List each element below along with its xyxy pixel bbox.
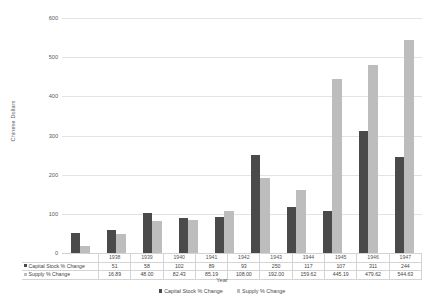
table-cell: 250	[260, 262, 292, 271]
bar-groups	[62, 18, 422, 253]
bar	[224, 211, 234, 253]
bar	[179, 218, 189, 253]
table-header-cell: 1941	[195, 254, 227, 263]
bar-group	[278, 18, 314, 253]
table-cell: 58	[131, 262, 163, 271]
table-header-cell: 1946	[357, 254, 389, 263]
y-axis-tick-label: 400	[49, 93, 58, 99]
bar	[251, 155, 261, 253]
y-axis-tick-label: 500	[49, 54, 58, 60]
table-header-cell: 1939	[131, 254, 163, 263]
bar	[188, 220, 198, 253]
bar-group	[134, 18, 170, 253]
legend-item-label: Supply % Change	[242, 288, 285, 294]
legend-color-swatch-icon	[237, 289, 240, 292]
bar	[395, 157, 405, 253]
bar	[215, 217, 225, 253]
table-header-cell: 1943	[260, 254, 292, 263]
bar	[296, 190, 306, 253]
bar	[116, 234, 126, 253]
y-axis-tick-label: 600	[49, 15, 58, 21]
legend-color-swatch-icon	[159, 289, 162, 292]
legend-item[interactable]: Supply % Change	[237, 288, 286, 294]
table-cell: 244	[389, 262, 421, 271]
series-color-swatch-icon	[24, 273, 27, 276]
bar-chart: Chinese Dollars 0100200300400500600 1938…	[0, 0, 444, 307]
bar	[152, 221, 162, 253]
y-axis-title: Chinese Dollars	[6, 56, 20, 186]
bar	[368, 65, 378, 253]
table-cell: 93	[228, 262, 260, 271]
legend-item-label: Capital Stock % Change	[164, 288, 222, 294]
bar-group	[98, 18, 134, 253]
table-header-cell: 1938	[99, 254, 131, 263]
table-header-cell: 1945	[325, 254, 357, 263]
x-axis-title: Year	[0, 277, 444, 283]
chart-legend: Capital Stock % ChangeSupply % Change	[0, 288, 444, 294]
bar-group	[62, 18, 98, 253]
bar	[143, 213, 153, 253]
x-axis-title-text: Year	[216, 277, 227, 283]
table-row: Capital Stock % Change515810289932501171…	[22, 262, 422, 271]
bar	[359, 131, 369, 253]
data-table: 1938193919401941194219431944194519461947…	[22, 253, 422, 280]
y-axis-tick-label: 300	[49, 133, 58, 139]
series-color-swatch-icon	[24, 264, 27, 267]
bar	[332, 79, 342, 253]
table-row-label: Capital Stock % Change	[22, 262, 99, 271]
bar	[71, 233, 81, 253]
table-header-cell: 1947	[389, 254, 421, 263]
bar	[287, 207, 297, 253]
bar-group	[314, 18, 350, 253]
bar	[323, 211, 333, 253]
table-corner-cell	[22, 254, 99, 263]
table-header-cell: 1944	[292, 254, 324, 263]
bar-group	[242, 18, 278, 253]
table-header-cell: 1940	[163, 254, 195, 263]
table-cell: 117	[292, 262, 324, 271]
bar-group	[206, 18, 242, 253]
table-row: 1938193919401941194219431944194519461947	[22, 254, 422, 263]
table-header-cell: 1942	[228, 254, 260, 263]
table-cell: 311	[357, 262, 389, 271]
table-cell: 51	[99, 262, 131, 271]
bar	[107, 230, 117, 253]
y-axis-tick-label: 200	[49, 172, 58, 178]
table-cell: 107	[325, 262, 357, 271]
plot-area: 0100200300400500600	[62, 18, 422, 253]
bar	[404, 40, 414, 253]
bar	[80, 246, 90, 253]
table-row-label-text: Capital Stock % Change	[29, 263, 85, 269]
y-axis-title-text: Chinese Dollars	[10, 101, 16, 142]
bar-group	[386, 18, 422, 253]
bar-group	[350, 18, 386, 253]
table-cell: 89	[195, 262, 227, 271]
bar	[260, 178, 270, 253]
table-cell: 102	[163, 262, 195, 271]
legend-item[interactable]: Capital Stock % Change	[159, 288, 223, 294]
bar-group	[170, 18, 206, 253]
y-axis-tick-label: 100	[49, 211, 58, 217]
